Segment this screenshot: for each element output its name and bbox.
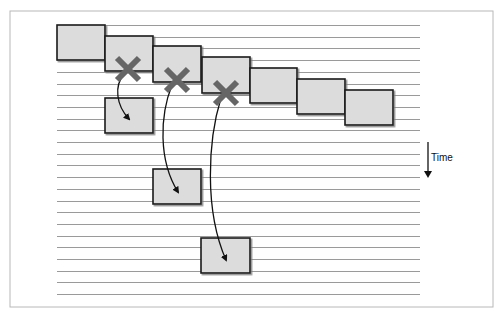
task-box (57, 25, 105, 60)
task-box (250, 68, 297, 103)
retry-task-box (201, 238, 250, 273)
retry-task-box (105, 98, 153, 133)
timeline-diagram (0, 0, 504, 315)
task-box (345, 90, 393, 125)
retry-arrow (210, 98, 226, 260)
retry-task-box (153, 169, 201, 204)
retry-task-boxes (105, 98, 250, 273)
time-label: Time (431, 152, 453, 163)
arrow-down-icon (424, 171, 432, 178)
task-box (297, 79, 345, 114)
task-box (202, 57, 250, 93)
